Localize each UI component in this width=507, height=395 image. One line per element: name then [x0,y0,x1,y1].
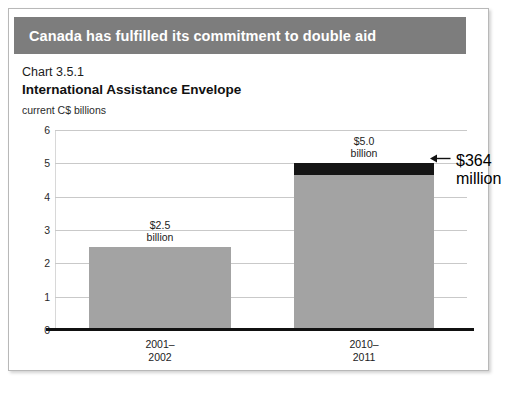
banner: Canada has fulfilled its commitment to d… [14,17,466,54]
chart-number: Chart 3.5.1 [22,64,452,80]
y-axis-unit-label: current C$ billions [22,103,452,117]
titles-block: Chart 3.5.1 International Assistance Env… [22,64,452,117]
figure-frame [8,8,489,371]
page-title: International Assistance Envelope [22,81,452,99]
banner-title: Canada has fulfilled its commitment to d… [29,28,376,44]
